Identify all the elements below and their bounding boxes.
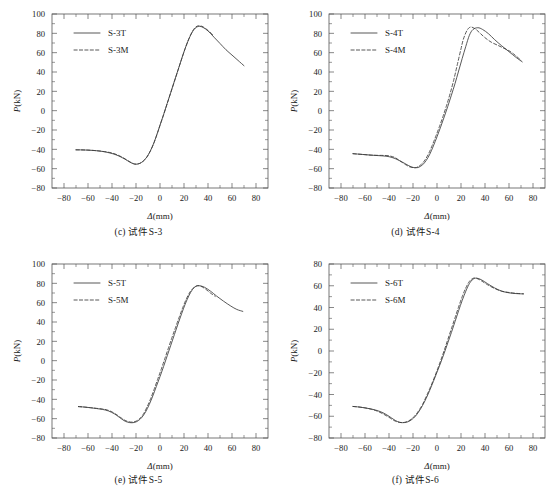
x-tick-label: 40	[481, 443, 490, 453]
x-tick-label: 80	[529, 193, 538, 203]
y-tick-label: 100	[32, 259, 45, 269]
legend-label-s-6m: S-6M	[385, 295, 406, 305]
chart-svg-e: −80−60−40−20020406080−80−60−40−200204060…	[0, 250, 277, 472]
y-tick-label: 80	[36, 279, 45, 289]
plot-area-f: −80−60−40−20020406080−80−60−40−200204060…	[277, 250, 554, 472]
y-tick-label: 60	[313, 48, 322, 58]
data-curve-s-3m	[76, 26, 213, 164]
y-tick-label: −80	[309, 183, 322, 193]
y-tick-label: 80	[313, 259, 322, 269]
y-tick-label: 20	[36, 337, 45, 347]
plot-frame-group-d: −80−60−40−20020406080−80−60−40−200204060…	[289, 9, 545, 221]
x-tick-label: −40	[382, 443, 395, 453]
legend-label-s-4m: S-4M	[385, 45, 406, 55]
x-tick-label: 0	[435, 193, 439, 203]
legend-label-s-6t: S-6T	[385, 278, 404, 288]
y-tick-label: 40	[313, 67, 322, 77]
plot-area-d: −80−60−40−20020406080−80−60−40−200204060…	[277, 0, 554, 222]
y-tick-label: 100	[32, 9, 45, 19]
y-tick-label: 20	[313, 87, 322, 97]
x-tick-label: 40	[204, 193, 213, 203]
x-axis-title: Δ(mm)	[423, 211, 449, 221]
y-tick-label: 20	[313, 324, 322, 334]
x-axis-title: Δ(mm)	[146, 211, 172, 221]
chart-svg-f: −80−60−40−20020406080−80−60−40−200204060…	[277, 250, 554, 472]
y-tick-label: −40	[32, 145, 45, 155]
x-tick-label: 80	[252, 443, 261, 453]
x-tick-label: 40	[204, 443, 213, 453]
x-tick-label: 40	[481, 193, 490, 203]
y-tick-label: 60	[36, 48, 45, 58]
panel-caption-d: (d) 试件S-4	[277, 224, 554, 238]
legend-label-s-4t: S-4T	[385, 28, 404, 38]
y-tick-label: 0	[318, 106, 322, 116]
x-tick-label: −40	[105, 443, 118, 453]
y-tick-label: 40	[36, 317, 45, 327]
plot-area-c: −80−60−40−20020406080−80−60−40−200204060…	[0, 0, 277, 222]
legend-label-s-5m: S-5M	[108, 295, 129, 305]
plot-area-e: −80−60−40−20020406080−80−60−40−200204060…	[0, 250, 277, 472]
panel-caption-f: (f) 试件S-6	[277, 472, 554, 486]
plot-frame	[52, 14, 268, 188]
y-tick-label: 20	[36, 87, 45, 97]
x-tick-label: −20	[406, 193, 419, 203]
panel-caption-e: (e) 试件S-5	[0, 472, 277, 486]
x-tick-label: 0	[158, 193, 162, 203]
y-axis-title: P(kN)	[289, 340, 299, 364]
y-tick-label: 0	[41, 106, 45, 116]
panel-f: −80−60−40−20020406080−80−60−40−200204060…	[277, 250, 554, 500]
data-curve-s-3t	[76, 26, 244, 164]
legend-label-s-5t: S-5T	[108, 278, 127, 288]
panel-e: −80−60−40−20020406080−80−60−40−200204060…	[0, 250, 277, 500]
y-tick-label: −60	[32, 164, 45, 174]
y-axis-title: P(kN)	[289, 90, 299, 114]
x-tick-label: 20	[180, 443, 189, 453]
panel-d: −80−60−40−20020406080−80−60−40−200204060…	[277, 0, 554, 250]
chart-svg-c: −80−60−40−20020406080−80−60−40−200204060…	[0, 0, 277, 222]
y-tick-label: −60	[309, 411, 322, 421]
chart-svg-d: −80−60−40−20020406080−80−60−40−200204060…	[277, 0, 554, 222]
y-tick-label: −60	[32, 414, 45, 424]
y-tick-label: 40	[36, 67, 45, 77]
x-tick-label: −20	[406, 443, 419, 453]
y-axis-title: P(kN)	[12, 90, 22, 114]
y-tick-label: −40	[309, 145, 322, 155]
y-tick-label: 60	[36, 298, 45, 308]
data-curve-s-4m	[353, 27, 521, 168]
y-tick-label: 100	[309, 9, 322, 19]
y-tick-label: −40	[309, 390, 322, 400]
x-tick-label: −40	[382, 193, 395, 203]
y-tick-label: 80	[36, 29, 45, 39]
data-curve-s-5m	[78, 286, 215, 423]
x-tick-label: −20	[129, 443, 142, 453]
y-tick-label: 40	[313, 303, 322, 313]
x-tick-label: 20	[457, 443, 466, 453]
plot-frame	[329, 14, 545, 188]
x-tick-label: 20	[180, 193, 189, 203]
x-tick-label: −80	[334, 443, 347, 453]
x-tick-label: 60	[505, 193, 514, 203]
y-tick-label: −80	[32, 433, 45, 443]
x-tick-label: 20	[457, 193, 466, 203]
x-tick-label: −60	[358, 443, 371, 453]
plot-frame	[329, 264, 545, 438]
x-tick-label: −80	[57, 443, 70, 453]
x-tick-label: 60	[505, 443, 514, 453]
plot-frame-group-f: −80−60−40−20020406080−80−60−40−200204060…	[289, 259, 545, 471]
y-tick-label: −40	[32, 395, 45, 405]
x-axis-title: Δ(mm)	[146, 461, 172, 471]
data-curve-s-4t	[353, 28, 522, 168]
x-tick-label: 0	[158, 443, 162, 453]
y-tick-label: 0	[41, 356, 45, 366]
y-tick-label: −20	[32, 125, 45, 135]
data-curve-s-5t	[78, 286, 242, 423]
y-tick-label: −20	[309, 368, 322, 378]
x-tick-label: −40	[105, 193, 118, 203]
x-tick-label: 80	[252, 193, 261, 203]
legend-label-s-3t: S-3T	[108, 28, 127, 38]
panel-c: −80−60−40−20020406080−80−60−40−200204060…	[0, 0, 277, 250]
y-tick-label: −60	[309, 164, 322, 174]
x-tick-label: 0	[435, 443, 439, 453]
x-tick-label: 60	[228, 193, 237, 203]
legend-label-s-3m: S-3M	[108, 45, 129, 55]
